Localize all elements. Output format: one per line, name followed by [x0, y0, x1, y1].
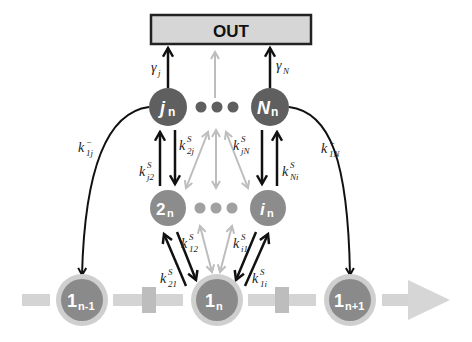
rate-k-plus-1N: k + 1N: [321, 138, 341, 159]
svg-text:j: j: [157, 68, 161, 78]
node-1-next: 1 n+1: [324, 274, 376, 326]
svg-text:1: 1: [205, 291, 215, 311]
svg-text:S: S: [147, 160, 152, 170]
rate-k-Ni: k S Ni: [282, 160, 299, 182]
svg-text:k: k: [139, 164, 146, 179]
svg-text:1N: 1N: [329, 149, 341, 159]
svg-text:12: 12: [189, 244, 199, 254]
svg-text:γ: γ: [276, 58, 282, 73]
rate-k-jN: k S jN: [233, 134, 251, 156]
svg-text:S: S: [189, 232, 194, 242]
svg-text:i1: i1: [241, 244, 248, 254]
svg-text:21: 21: [168, 279, 177, 289]
svg-text:k: k: [181, 236, 188, 251]
svg-text:n: n: [167, 207, 174, 219]
svg-text:N: N: [282, 66, 290, 76]
node-2: 2 n: [150, 190, 186, 226]
svg-text:k: k: [179, 138, 186, 153]
top-ellipsis: [196, 102, 239, 113]
svg-text:S: S: [187, 134, 192, 144]
svg-text:j: j: [158, 98, 166, 118]
svg-text:j2: j2: [146, 172, 155, 182]
rate-gamma-N: γ N: [276, 58, 290, 76]
svg-text:1: 1: [67, 291, 77, 311]
svg-text:k: k: [78, 140, 85, 155]
middle-ellipsis: [195, 203, 238, 214]
svg-text:1j: 1j: [86, 148, 94, 158]
svg-text:jN: jN: [240, 146, 251, 156]
svg-text:k: k: [233, 138, 240, 153]
svg-text:N: N: [257, 98, 271, 118]
svg-text:Ni: Ni: [289, 172, 299, 182]
track-block-left: [142, 287, 156, 313]
rate-k-2j: k S 2j: [179, 134, 195, 156]
svg-text:k: k: [160, 271, 167, 286]
svg-text:S: S: [241, 232, 246, 242]
svg-text:−: −: [86, 137, 92, 147]
svg-text:k: k: [233, 236, 240, 251]
svg-text:S: S: [260, 267, 265, 277]
svg-text:1i: 1i: [260, 279, 268, 289]
rate-k-12: k S 12: [181, 232, 199, 254]
node-N: N n: [251, 88, 289, 126]
rate-k-1i: k S 1i: [252, 267, 268, 289]
svg-text:n: n: [267, 207, 274, 219]
svg-text:n: n: [216, 300, 223, 312]
svg-text:+: +: [329, 138, 335, 148]
output-box: OUT: [151, 15, 311, 44]
svg-text:S: S: [168, 267, 173, 277]
svg-text:k: k: [282, 164, 289, 179]
rate-k-i1: k S i1: [233, 232, 248, 254]
node-i: i n: [250, 190, 286, 226]
svg-text:2: 2: [156, 200, 165, 219]
arrow-j-to-prev: [82, 107, 149, 275]
svg-text:n: n: [271, 105, 278, 119]
rate-k-minus-1j: k − 1j: [78, 137, 94, 158]
node-1-prev: 1 n-1: [56, 274, 108, 326]
svg-text:n-1: n-1: [78, 300, 95, 312]
svg-text:1: 1: [334, 291, 344, 311]
svg-text:S: S: [241, 134, 246, 144]
rate-k-21: k S 21: [160, 267, 177, 289]
svg-text:γ: γ: [151, 60, 157, 75]
output-label: OUT: [213, 22, 250, 41]
svg-text:2j: 2j: [187, 146, 195, 156]
node-1-current: 1 n: [191, 274, 243, 326]
track-block-right: [275, 287, 289, 313]
svg-text:S: S: [290, 160, 295, 170]
svg-text:k: k: [321, 141, 328, 156]
arrow-N-to-next: [289, 107, 350, 275]
chain-direction-arrow: [408, 280, 450, 320]
svg-text:n: n: [168, 105, 175, 119]
node-j: j n: [149, 88, 187, 126]
svg-text:k: k: [252, 271, 259, 286]
rate-gamma-j: γ j: [151, 60, 161, 78]
svg-text:n+1: n+1: [345, 300, 364, 312]
rate-k-j2: k S j2: [139, 160, 155, 182]
network-diagram: OUT j n N n 2 n: [0, 0, 472, 342]
